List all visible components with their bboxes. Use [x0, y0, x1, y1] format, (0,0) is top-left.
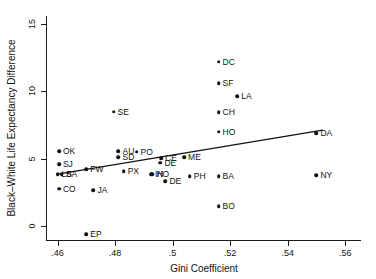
- scatter-plot-figure: .46.48.5.52.54.56 051015 OKSJLBSACOFWJAE…: [0, 0, 376, 279]
- data-point: [92, 188, 96, 192]
- data-point-label: CO: [63, 184, 76, 194]
- data-point: [151, 172, 155, 176]
- y-tick-label: 10: [27, 86, 37, 96]
- data-point: [56, 172, 60, 176]
- data-point-label: CH: [223, 107, 235, 117]
- x-axis-title: Gini Coefficient: [170, 263, 238, 274]
- y-tick-label: 15: [27, 19, 37, 29]
- data-point: [217, 174, 221, 178]
- data-point-label: SA: [66, 169, 77, 179]
- data-point: [57, 187, 61, 191]
- y-tick-label: 0: [27, 223, 37, 228]
- data-point: [57, 149, 61, 153]
- data-point: [159, 156, 163, 160]
- data-point: [217, 60, 221, 64]
- x-tick-mark: [173, 241, 174, 246]
- data-point-label: DA: [320, 128, 332, 138]
- data-point: [112, 110, 116, 114]
- x-tick-label: .56: [339, 248, 352, 258]
- data-point-label: HO: [156, 169, 169, 179]
- data-point-label: SJ: [63, 159, 73, 169]
- data-point: [236, 94, 240, 98]
- x-tick-mark: [345, 241, 346, 246]
- data-point-label: JA: [97, 185, 107, 195]
- data-point-label: PO: [141, 147, 153, 157]
- x-tick-label: .48: [109, 248, 122, 258]
- y-tick-mark: [41, 159, 46, 160]
- data-point: [217, 205, 221, 209]
- x-tick-mark: [58, 241, 59, 246]
- y-tick-mark: [41, 24, 46, 25]
- x-tick-label: .52: [224, 248, 237, 258]
- data-point: [57, 162, 61, 166]
- data-point-label: OK: [63, 146, 75, 156]
- data-point: [60, 172, 64, 176]
- data-point-label: NY: [320, 170, 332, 180]
- data-point-label: HO: [223, 127, 236, 137]
- data-point-label: PX: [128, 166, 139, 176]
- data-point-label: DE: [164, 158, 176, 168]
- data-point: [117, 149, 121, 153]
- x-tick-mark: [230, 241, 231, 246]
- data-point-label: SF: [223, 78, 234, 88]
- data-point-label: SD: [122, 152, 134, 162]
- y-tick-mark: [41, 91, 46, 92]
- y-axis-line: [46, 16, 47, 241]
- data-point: [188, 174, 192, 178]
- data-point: [182, 155, 186, 159]
- data-point-label: DE: [169, 176, 181, 186]
- x-axis-line: [46, 240, 361, 241]
- data-point: [84, 168, 88, 172]
- data-point: [217, 130, 221, 134]
- data-point-label: SE: [118, 107, 129, 117]
- data-point: [164, 180, 168, 184]
- data-point: [315, 174, 319, 178]
- data-point: [122, 170, 126, 174]
- data-point-label: PH: [194, 171, 206, 181]
- data-point-label: DC: [223, 57, 235, 67]
- data-point-label: ME: [188, 152, 201, 162]
- x-tick-label: .5: [169, 248, 177, 258]
- data-point-label: FW: [90, 164, 103, 174]
- y-tick-mark: [41, 226, 46, 227]
- x-tick-label: .54: [281, 248, 294, 258]
- data-point: [217, 81, 221, 85]
- data-point: [84, 232, 88, 236]
- data-point-label: LA: [241, 91, 251, 101]
- data-point: [217, 110, 221, 114]
- data-point-label: EP: [90, 229, 101, 239]
- data-point: [135, 150, 139, 154]
- regression-line: [0, 0, 376, 279]
- x-tick-label: .46: [51, 248, 64, 258]
- data-point: [159, 161, 163, 165]
- data-point: [315, 131, 319, 135]
- y-tick-label: 5: [27, 156, 37, 161]
- data-point-label: BO: [223, 201, 235, 211]
- x-tick-mark: [288, 241, 289, 246]
- x-tick-mark: [115, 241, 116, 246]
- y-axis-title: Black–White Life Expectancy Difference: [6, 39, 17, 216]
- data-point: [117, 155, 121, 159]
- data-point-label: BA: [223, 171, 234, 181]
